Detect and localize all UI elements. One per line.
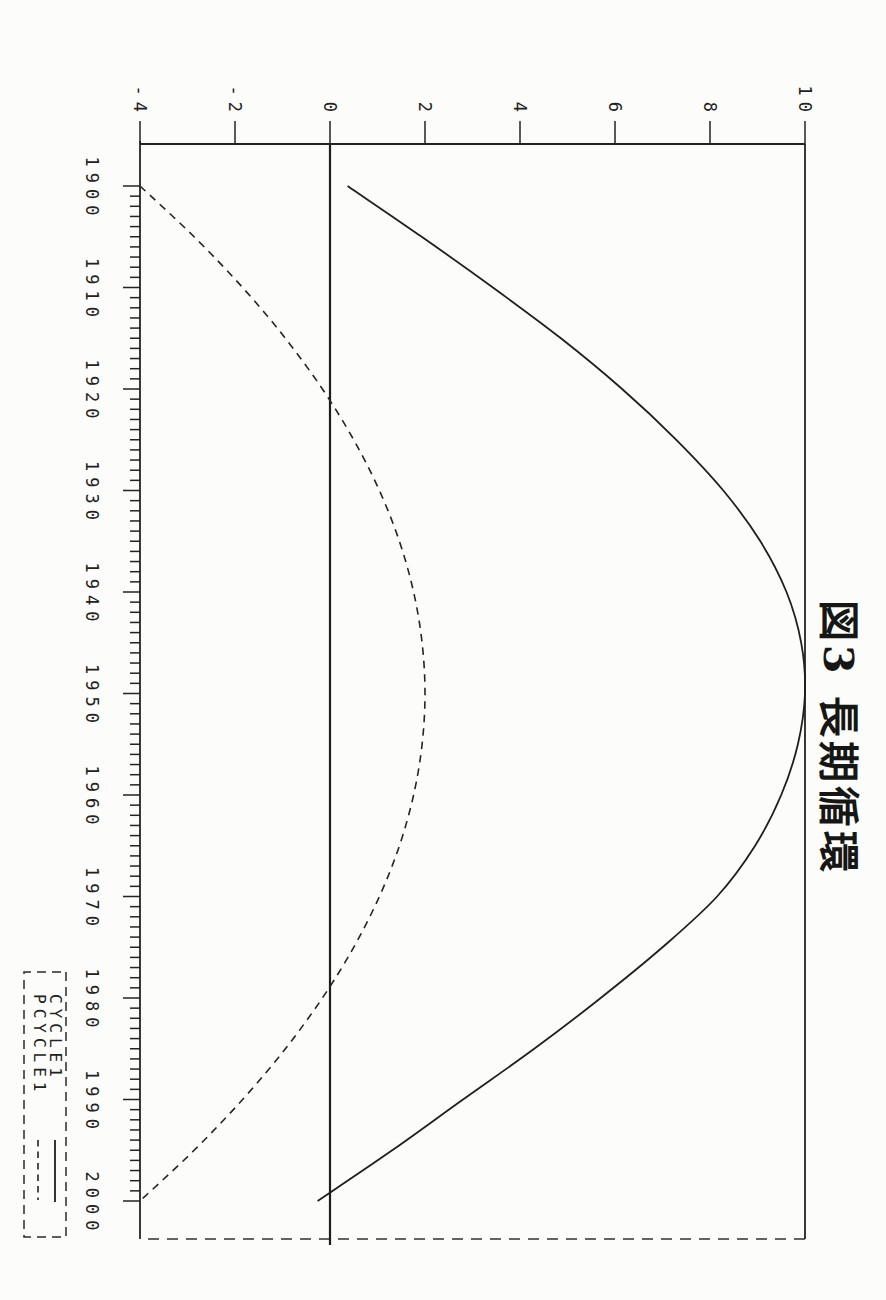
year-tick-label: 1920 <box>82 360 102 425</box>
year-tick-label: 1990 <box>82 1070 102 1135</box>
rotated-chart-container: 図3 長期循環 -4-20246810 19001910192019301940… <box>0 0 886 1300</box>
scanned-figure-page: 図3 長期循環 -4-20246810 19001910192019301940… <box>0 0 886 1300</box>
value-tick-label: 2 <box>415 102 435 118</box>
year-tick-label: 1960 <box>82 766 102 831</box>
year-tick-label: 1940 <box>82 563 102 628</box>
year-tick-label: 1980 <box>82 969 102 1034</box>
plot-frame <box>140 144 805 1245</box>
year-tick-label: 1930 <box>82 461 102 526</box>
year-tick-label: 2000 <box>82 1172 102 1237</box>
chart-svg: 図3 長期循環 -4-20246810 19001910192019301940… <box>0 0 886 1300</box>
value-tick-label: -2 <box>225 86 245 118</box>
chart-title: 図3 長期循環 <box>814 600 862 876</box>
value-tick-label: -4 <box>130 86 150 118</box>
value-tick-label: 10 <box>795 86 815 118</box>
legend-label-pcycle1: PCYCLE1 <box>30 994 49 1096</box>
value-tick-label: 4 <box>510 102 530 118</box>
value-tick-label: 6 <box>605 102 625 118</box>
year-axis: 1900191019201930194019501960197019801990… <box>82 141 140 1239</box>
curves <box>140 186 805 1201</box>
cycle1-curve <box>318 186 806 1201</box>
year-tick-label: 1900 <box>82 157 102 222</box>
value-tick-label: 8 <box>700 102 720 118</box>
legend: CYCLE1 PCYCLE1 <box>24 972 66 1237</box>
value-axis: -4-20246810 <box>130 86 815 144</box>
value-tick-label: 0 <box>320 102 340 118</box>
year-tick-label: 1970 <box>82 867 102 932</box>
year-tick-label: 1950 <box>82 664 102 729</box>
year-tick-label: 1910 <box>82 258 102 323</box>
pcycle1-curve <box>140 186 425 1201</box>
